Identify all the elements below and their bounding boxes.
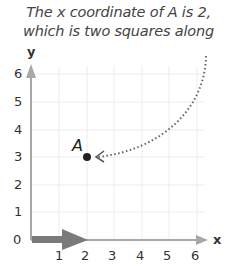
y-tick-1: 1 [14,204,22,219]
y-tick-0: 0 [13,232,21,247]
y-tick-5: 5 [14,94,22,109]
y-tick-2: 2 [14,177,22,192]
point-a-label: A [72,136,83,155]
x-tick-4: 4 [136,248,144,263]
y-axis-label: y [27,44,35,59]
x-tick-1: 1 [55,248,63,263]
point-a [83,153,91,161]
x-tick-6: 6 [191,248,199,263]
coordinate-grid [0,0,237,266]
y-axis [26,64,36,240]
x-tick-2: 2 [81,248,89,263]
x-distance-arrow [32,229,88,250]
y-tick-4: 4 [14,122,22,137]
y-tick-6: 6 [14,66,22,81]
y-tick-3: 3 [14,149,22,164]
x-tick-5: 5 [163,248,171,263]
x-axis-label: x [213,232,221,247]
x-tick-3: 3 [108,248,116,263]
